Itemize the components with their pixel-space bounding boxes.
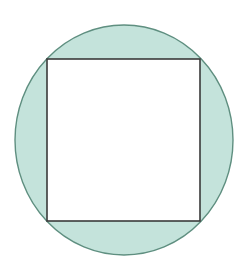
diagram-svg	[0, 0, 244, 264]
diagram-canvas	[0, 0, 244, 264]
inscribed-square	[47, 59, 200, 221]
